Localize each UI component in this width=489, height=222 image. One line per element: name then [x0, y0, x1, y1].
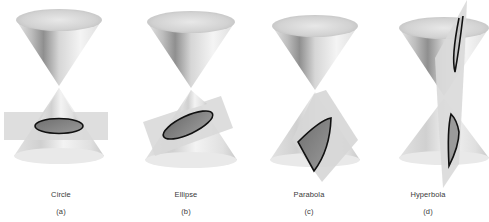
figure-parabola: Parabola (c): [248, 0, 370, 222]
upper-cone: [272, 15, 358, 90]
caption-label-c: (c): [248, 207, 370, 216]
caption-label-b: (b): [125, 207, 247, 216]
circle-section: [35, 119, 83, 134]
upper-cone: [147, 11, 235, 88]
hyperbola-cone-diagram: [367, 0, 489, 190]
caption-name-ellipse: Ellipse: [125, 190, 247, 199]
caption-name-parabola: Parabola: [248, 190, 370, 199]
figure-ellipse: Ellipse (b): [125, 0, 247, 222]
parabola-cone-diagram: [248, 0, 370, 190]
ellipse-cone-diagram: [125, 0, 247, 190]
caption-label-a: (a): [0, 207, 122, 216]
upper-cone: [16, 9, 102, 86]
circle-cone-diagram: [0, 0, 122, 190]
figure-hyperbola: Hyperbola (d): [367, 0, 489, 222]
caption-label-d: (d): [367, 207, 489, 216]
caption-name-circle: Circle: [0, 190, 122, 199]
figure-circle: Circle (a): [0, 0, 122, 222]
caption-name-hyperbola: Hyperbola: [367, 190, 489, 199]
